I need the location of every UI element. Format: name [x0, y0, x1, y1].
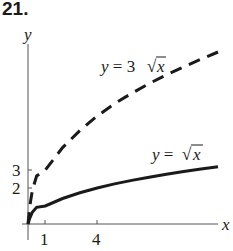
x-axis-label: x — [221, 215, 230, 234]
svg-text:x: x — [156, 57, 165, 76]
y-axis-label: y — [22, 25, 32, 44]
svg-text:x: x — [192, 145, 201, 164]
x-tick-label-4: 4 — [92, 230, 101, 249]
y-tick-label-2: 2 — [12, 179, 21, 198]
svg-text:√: √ — [147, 57, 157, 76]
x-tick-label-1: 1 — [40, 230, 49, 249]
dashed-curve-label: y = 3 √ x — [99, 57, 166, 76]
svg-text:√: √ — [182, 145, 192, 164]
solid-curve-label: y = √ x — [150, 145, 203, 164]
y-tick-label-3: 3 — [12, 161, 21, 180]
chart: 1 4 3 2 y x y = 3 √ x y = √ x — [0, 0, 233, 251]
svg-text:y =: y = — [150, 145, 173, 164]
svg-text:y = 3: y = 3 — [99, 57, 135, 76]
dashed-curve-3-sqrt-x — [28, 52, 218, 224]
solid-curve-sqrt-x — [28, 167, 218, 224]
